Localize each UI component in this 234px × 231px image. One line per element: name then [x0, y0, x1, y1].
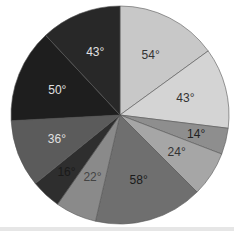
bottom-border	[0, 227, 234, 231]
slice-label: 43°	[176, 91, 194, 105]
slice-label: 24°	[168, 145, 186, 159]
pie-chart: 54°43°14°24°58°22°16°36°50°43°	[0, 0, 234, 231]
slice-label: 58°	[130, 173, 148, 187]
slice-label: 22°	[83, 170, 101, 184]
slice-label: 14°	[187, 127, 205, 141]
slice-label: 36°	[48, 132, 66, 146]
slice-label: 50°	[48, 83, 66, 97]
slice-label: 54°	[142, 48, 160, 62]
slice-label: 16°	[57, 165, 75, 179]
slice-label: 43°	[86, 45, 104, 59]
